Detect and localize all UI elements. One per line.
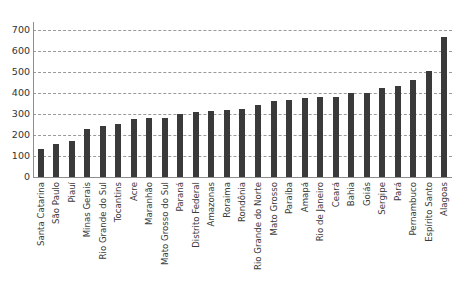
x-label-slot: Mato Grosso do Sul [157, 180, 173, 285]
bar[interactable] [69, 141, 75, 177]
x-label-slot: Paraná [173, 180, 189, 285]
y-axis-tick-label: 300 [2, 109, 30, 119]
x-label-slot: Piauí [64, 180, 80, 285]
x-label-slot: Espírito Santo [421, 180, 437, 285]
bar-slot [157, 22, 173, 177]
x-label-slot: Paraíba [281, 180, 297, 285]
bar-chart: 0100200300400500600700 Santa CatarinaSão… [0, 0, 457, 287]
x-label-slot: Amazonas [204, 180, 220, 285]
bars-layer [33, 22, 452, 177]
x-axis-tick-label: Alagoas [440, 182, 449, 216]
x-label-slot: Pará [390, 180, 406, 285]
bar[interactable] [395, 86, 401, 177]
x-label-slot: Maranhão [142, 180, 158, 285]
y-axis-tick-label: 100 [2, 151, 30, 161]
bar[interactable] [286, 100, 292, 177]
y-axis-tick-label: 400 [2, 88, 30, 98]
bar-slot [80, 22, 96, 177]
bar[interactable] [162, 118, 168, 177]
bar[interactable] [302, 98, 308, 177]
x-label-slot: Distrito Federal [188, 180, 204, 285]
bar[interactable] [84, 129, 90, 177]
bar-slot [204, 22, 220, 177]
x-axis-tick-label: Mato Grosso do Sul [161, 182, 170, 265]
bar[interactable] [348, 93, 354, 177]
x-axis-tick-label: Maranhão [145, 182, 154, 225]
y-axis-tick-label: 700 [2, 25, 30, 35]
x-axis-tick-label: Paraná [176, 182, 185, 212]
bar-slot [142, 22, 158, 177]
bar[interactable] [53, 144, 59, 177]
bar-slot [297, 22, 313, 177]
x-axis-line [33, 177, 452, 178]
bar-slot [64, 22, 80, 177]
x-axis-tick-label: Amapá [300, 182, 309, 212]
x-axis-tick-label: Bahia [347, 182, 356, 206]
x-label-slot: Tocantins [111, 180, 127, 285]
bar-slot [343, 22, 359, 177]
x-label-slot: Rio Grande do Sul [95, 180, 111, 285]
bar-slot [359, 22, 375, 177]
bar[interactable] [364, 93, 370, 177]
x-label-slot: Roraima [219, 180, 235, 285]
x-label-slot: Acre [126, 180, 142, 285]
x-label-slot: Santa Catarina [33, 180, 49, 285]
bar[interactable] [271, 101, 277, 177]
bar-slot [250, 22, 266, 177]
bar[interactable] [131, 119, 137, 177]
bar[interactable] [115, 124, 121, 177]
bar[interactable] [38, 149, 44, 177]
x-label-slot: Amapá [297, 180, 313, 285]
x-label-slot: Bahia [343, 180, 359, 285]
x-axis-tick-label: Espírito Santo [424, 182, 433, 242]
x-axis-tick-label: Paraíba [285, 182, 294, 214]
x-axis-tick-label: Tocantins [114, 182, 123, 222]
bar[interactable] [317, 97, 323, 177]
bar-slot [374, 22, 390, 177]
x-axis-tick-label: Santa Catarina [36, 182, 45, 246]
bar[interactable] [239, 109, 245, 177]
x-axis-tick-label: Rio Grande do Sul [99, 182, 108, 259]
x-axis-tick-label: Minas Gerais [83, 182, 92, 237]
bar[interactable] [333, 97, 339, 177]
bar-slot [126, 22, 142, 177]
bar[interactable] [146, 118, 152, 177]
x-label-slot: Pernambuco [405, 180, 421, 285]
bar-slot [312, 22, 328, 177]
bar-slot [390, 22, 406, 177]
bar-slot [266, 22, 282, 177]
x-label-slot: Rio Grande do Norte [250, 180, 266, 285]
bar-slot [436, 22, 452, 177]
x-axis-tick-label: Roraima [223, 182, 232, 218]
bar-slot [219, 22, 235, 177]
x-axis-tick-label: Piauí [67, 182, 76, 202]
y-axis-tick-label: 200 [2, 130, 30, 140]
x-label-slot: Mato Grosso [266, 180, 282, 285]
bar[interactable] [410, 80, 416, 177]
x-axis-tick-label: Distrito Federal [192, 182, 201, 248]
bar-slot [111, 22, 127, 177]
bar[interactable] [193, 112, 199, 177]
y-axis-tick-label: 0 [2, 172, 30, 182]
bar-slot [405, 22, 421, 177]
bar[interactable] [379, 88, 385, 177]
bar-slot [49, 22, 65, 177]
bar[interactable] [426, 71, 432, 177]
x-label-slot: Minas Gerais [80, 180, 96, 285]
x-label-slot: Ceará [328, 180, 344, 285]
bar-slot [33, 22, 49, 177]
bar-slot [421, 22, 437, 177]
bar[interactable] [208, 111, 214, 177]
y-axis-tick-label: 500 [2, 67, 30, 77]
bar[interactable] [100, 126, 106, 177]
bar[interactable] [177, 114, 183, 177]
bar-slot [235, 22, 251, 177]
bar[interactable] [441, 37, 447, 177]
x-axis-tick-label: Acre [130, 182, 139, 201]
bar-slot [188, 22, 204, 177]
x-axis-tick-label: Rio Grande do Norte [254, 182, 263, 270]
x-label-slot: Goiás [359, 180, 375, 285]
x-axis-tick-label: São Paulo [52, 182, 61, 224]
bar[interactable] [255, 105, 261, 177]
bar[interactable] [224, 110, 230, 177]
